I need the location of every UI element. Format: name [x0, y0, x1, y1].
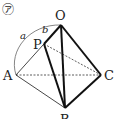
label-b: b	[42, 24, 48, 35]
figure-marker: ㋐	[2, 3, 14, 17]
label-B: B	[60, 112, 70, 119]
edge-BC	[65, 75, 101, 108]
label-A: A	[2, 68, 13, 83]
edge-AB	[16, 75, 65, 108]
tetrahedron-diagram: ㋐ O P A C B a b	[0, 0, 117, 119]
label-O: O	[55, 8, 66, 23]
label-a: a	[20, 30, 26, 41]
label-P: P	[33, 37, 42, 52]
label-C: C	[104, 68, 114, 83]
edge-OC	[61, 25, 101, 75]
